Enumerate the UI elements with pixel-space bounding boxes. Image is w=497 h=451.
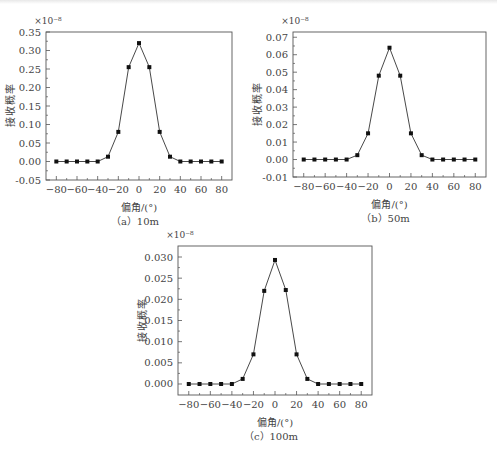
svg-text:收: 收 (4, 106, 16, 116)
svg-text:概: 概 (4, 95, 16, 105)
y-tick-label: 0.015 (144, 315, 173, 326)
data-point-marker (137, 41, 141, 45)
svg-text:收: 收 (251, 105, 263, 115)
x-tick-label: 80 (215, 184, 228, 195)
data-point-marker (366, 131, 370, 135)
x-tick-label: −40 (336, 181, 357, 192)
svg-text:概: 概 (136, 310, 148, 320)
svg-text:接: 接 (136, 332, 148, 342)
x-tick-label: −40 (221, 399, 242, 410)
chart-caption: （a）10m (111, 216, 160, 227)
data-point-marker (441, 158, 445, 162)
series-line (189, 260, 361, 384)
series-line (56, 43, 221, 161)
y-multiplier-label: ×10⁻⁸ (281, 16, 309, 26)
y-multiplier-label: ×10⁻⁸ (34, 16, 62, 26)
y-tick-label: 0.25 (19, 64, 41, 75)
data-point-marker (54, 160, 58, 164)
svg-text:率: 率 (136, 299, 148, 309)
data-point-marker (187, 382, 191, 386)
x-tick-label: −80 (293, 181, 314, 192)
y-tick-label: -0.05 (15, 175, 41, 186)
data-point-marker (473, 158, 477, 162)
data-point-marker (251, 352, 255, 356)
data-point-marker (398, 74, 402, 78)
y-tick-label: 0.30 (19, 45, 41, 56)
data-point-marker (158, 130, 162, 134)
y-tick-label: 0.000 (144, 378, 173, 389)
y-axis-label: 率概收接 (136, 299, 148, 342)
data-point-marker (220, 160, 224, 164)
chart-c: 0.0000.0050.0100.0150.0200.0250.030−80−6… (136, 230, 372, 442)
y-tick-label: 0.05 (19, 138, 41, 149)
x-tick-label: −60 (315, 181, 336, 192)
data-point-marker (178, 160, 182, 164)
data-point-marker (96, 160, 100, 164)
data-point-marker (75, 160, 79, 164)
data-point-marker (452, 158, 456, 162)
data-point-marker (377, 74, 381, 78)
x-axis-label: 偏角/(°) (121, 201, 157, 213)
x-tick-label: −80 (46, 184, 67, 195)
data-point-marker (463, 158, 467, 162)
data-point-marker (262, 289, 266, 293)
y-tick-label: 0.04 (266, 84, 288, 95)
data-point-marker (284, 288, 288, 292)
data-point-marker (312, 158, 316, 162)
data-point-marker (420, 153, 424, 157)
x-tick-label: 60 (195, 184, 208, 195)
y-tick-label: 0.35 (19, 27, 41, 38)
y-tick-label: 0.02 (266, 119, 288, 130)
data-point-marker (302, 158, 306, 162)
plot-frame (178, 246, 372, 395)
x-tick-label: −20 (108, 184, 129, 195)
data-point-marker (230, 382, 234, 386)
y-tick-label: 0.010 (144, 336, 173, 347)
y-tick-label: 0.00 (19, 156, 41, 167)
series-line (304, 48, 476, 160)
data-point-marker (316, 382, 320, 386)
data-point-marker (147, 65, 151, 69)
svg-text:收: 收 (136, 321, 148, 331)
svg-text:率: 率 (251, 83, 263, 93)
y-axis-label: 率概收接 (4, 84, 16, 127)
chart-caption: （c）100m (244, 431, 299, 442)
data-point-marker (334, 158, 338, 162)
y-tick-label: -0.01 (262, 172, 288, 183)
x-tick-label: 0 (386, 181, 392, 192)
data-point-marker (430, 158, 434, 162)
data-point-marker (345, 158, 349, 162)
y-tick-label: 0.07 (266, 32, 288, 43)
data-point-marker (359, 382, 363, 386)
data-point-marker (219, 382, 223, 386)
x-tick-label: 20 (405, 181, 418, 192)
data-point-marker (208, 382, 212, 386)
x-tick-label: 40 (174, 184, 187, 195)
chart-a: -0.050.000.050.100.150.200.250.300.35−80… (4, 16, 232, 227)
data-point-marker (338, 382, 342, 386)
data-point-marker (85, 160, 89, 164)
x-tick-label: 40 (312, 399, 325, 410)
data-point-marker (295, 352, 299, 356)
x-tick-label: −20 (358, 181, 379, 192)
y-tick-label: 0.00 (266, 154, 288, 165)
plot-frame (46, 32, 232, 180)
x-axis-label: 偏角/(°) (257, 416, 293, 428)
figure: -0.050.000.050.100.150.200.250.300.35−80… (0, 0, 497, 451)
y-tick-label: 0.020 (144, 294, 173, 305)
x-tick-label: −60 (200, 399, 221, 410)
y-tick-label: 0.005 (144, 357, 173, 368)
chart-b: -0.010.000.010.020.030.040.050.060.07−80… (251, 16, 486, 224)
data-point-marker (305, 377, 309, 381)
data-point-marker (273, 258, 277, 262)
y-tick-label: 0.01 (266, 137, 288, 148)
data-point-marker (199, 160, 203, 164)
y-tick-label: 0.20 (19, 82, 41, 93)
svg-text:概: 概 (251, 94, 263, 104)
y-tick-label: 0.15 (19, 101, 41, 112)
svg-text:接: 接 (251, 116, 263, 126)
y-tick-label: 0.10 (19, 119, 41, 130)
data-point-marker (348, 382, 352, 386)
data-point-marker (241, 377, 245, 381)
y-axis-label: 率概收接 (251, 83, 263, 126)
